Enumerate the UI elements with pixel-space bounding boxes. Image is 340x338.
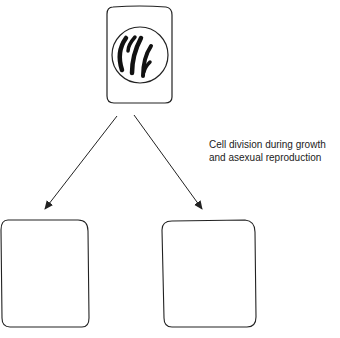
daughter-cell-left — [1, 220, 89, 327]
cell-division-diagram — [0, 0, 340, 338]
caption-line-2: and asexual reproduction — [209, 152, 321, 163]
parent-cell — [107, 6, 172, 103]
daughter-cell-right — [162, 220, 256, 327]
arrow-left — [45, 116, 117, 209]
chromosomes — [120, 37, 151, 76]
arrow-right — [134, 115, 202, 209]
caption-line-1: Cell division during growth — [209, 139, 326, 150]
